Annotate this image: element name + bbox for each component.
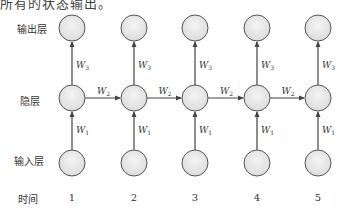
weight-w3-label: W3 [138,60,151,71]
time-step-label: 1 [69,192,75,203]
weight-w1-label: W1 [199,125,212,136]
weight-w2-label: W2 [159,86,172,97]
time-step-label: 2 [131,192,137,203]
output-node [182,15,208,41]
hidden-node [305,85,331,111]
input-node [244,150,270,176]
weight-w3-label: W3 [199,60,212,71]
weight-w3-label: W3 [322,60,335,71]
output-node [121,15,147,41]
weight-w1-label: W1 [261,125,274,136]
weight-w3-label: W3 [261,60,274,71]
output-node [59,15,85,41]
weight-w2-label: W2 [97,86,110,97]
time-step-label: 3 [192,192,198,203]
hidden-node [59,85,85,111]
weight-w1-label: W1 [76,125,89,136]
weight-w2-label: W2 [220,86,233,97]
input-node [182,150,208,176]
input-node [59,150,85,176]
input-node [121,150,147,176]
output-node [244,15,270,41]
input-node [305,150,331,176]
weight-w3-label: W3 [76,60,89,71]
weight-w1-label: W1 [322,125,335,136]
hidden-node [121,85,147,111]
weight-w1-label: W1 [138,125,151,136]
rnn-unrolled-diagram: W1W3W2W1W3W2W1W3W2W1W3W2W1W312345 [0,0,341,216]
time-step-label: 5 [315,192,321,203]
hidden-node [244,85,270,111]
output-node [305,15,331,41]
weight-w2-label: W2 [282,86,295,97]
hidden-node [182,85,208,111]
time-step-label: 4 [254,192,260,203]
